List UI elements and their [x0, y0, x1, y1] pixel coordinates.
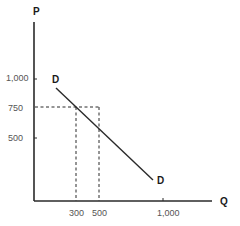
- demand-curve-end-label: D: [157, 175, 164, 186]
- x-tick-label-1000: 1,000: [157, 208, 180, 218]
- demand-chart: P Q 1,000 750 500 300 500 1,000 D D: [0, 0, 240, 226]
- y-axis-label: P: [33, 6, 40, 17]
- demand-curve: [56, 88, 153, 180]
- y-tick-label-500: 500: [8, 133, 23, 143]
- demand-curve-start-label: D: [52, 74, 59, 85]
- x-tick-label-500: 500: [92, 208, 107, 218]
- x-axis-label: Q: [220, 196, 228, 207]
- y-tick-label-750: 750: [8, 103, 23, 113]
- y-tick-label-1000: 1,000: [6, 73, 29, 83]
- x-tick-label-300: 300: [69, 208, 84, 218]
